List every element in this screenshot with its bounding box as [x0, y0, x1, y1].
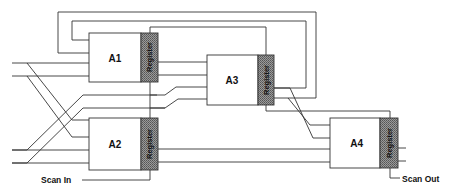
- a2-input-wires: [12, 150, 89, 163]
- a1-to-a3-wires: [150, 62, 207, 108]
- a2-to-a4-wires: [158, 149, 330, 162]
- scan-chain-a3-a4: [266, 105, 390, 118]
- scan-chain-diagram: A1 Register A2 Register A3 Register A4 R…: [0, 0, 460, 194]
- block-a3: A3 Register: [207, 55, 274, 105]
- block-label: A2: [109, 139, 122, 150]
- register-label: Register: [385, 128, 394, 158]
- block-label: A4: [350, 138, 363, 149]
- scan-out-wire: [390, 168, 400, 178]
- block-a2: A2 Register: [89, 118, 158, 170]
- block-a1: A1 Register: [89, 33, 158, 82]
- block-label: A1: [109, 53, 122, 64]
- scan-out-label: Scan Out: [402, 174, 439, 184]
- scan-in-label: Scan In: [41, 175, 71, 185]
- block-a4: A4 Register: [330, 118, 398, 168]
- register-label: Register: [145, 42, 154, 72]
- a1-input-wires: [12, 63, 89, 76]
- register-label: Register: [262, 65, 271, 95]
- block-label: A3: [226, 75, 239, 86]
- scan-in-wire: [82, 170, 150, 180]
- register-label: Register: [145, 129, 154, 159]
